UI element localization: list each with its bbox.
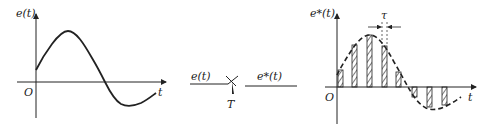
pulse (352, 45, 357, 87)
left-signal-curve (36, 31, 156, 106)
pulse (427, 87, 432, 107)
sampler-output-label: e*(t) (257, 70, 282, 83)
pulse-width-annotation: τ (368, 9, 401, 46)
right-origin-label: O (325, 91, 334, 104)
right-x-label: t (468, 91, 473, 104)
left-origin-label: O (24, 86, 33, 99)
left-y-label: e(t) (16, 7, 36, 20)
tau-label: τ (381, 9, 388, 22)
pulse (382, 46, 387, 87)
right-y-label: e*(t) (310, 7, 335, 20)
right-plot: τ e*(t) t O (310, 7, 476, 124)
left-plot: e(t) t O (16, 7, 166, 118)
sampler-input-label: e(t) (191, 70, 211, 83)
pulse (442, 87, 447, 105)
sampler-period-label: T (227, 98, 236, 111)
sampler-switch: e(t) e*(t) T (190, 70, 297, 111)
left-x-label: t (158, 86, 163, 99)
pulse (367, 35, 372, 87)
